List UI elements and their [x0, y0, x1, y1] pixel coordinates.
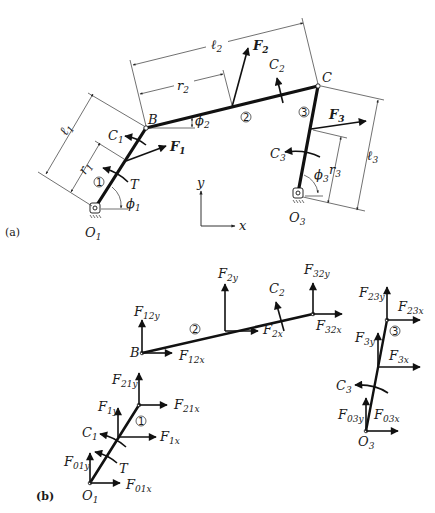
- label-r1: r1: [75, 159, 96, 178]
- label-link-1-b: 1: [138, 416, 144, 427]
- label-link-3: 3: [301, 107, 307, 118]
- moment-c2-arrow: [277, 78, 283, 103]
- label-f1y: F1y: [97, 399, 119, 416]
- label-f3: F3: [328, 107, 345, 124]
- label-phi1: ϕ1: [126, 196, 141, 213]
- label-c: C: [322, 70, 332, 85]
- label-o3: O3: [289, 210, 306, 227]
- label-f01x: F01x: [125, 477, 152, 494]
- label-c1-fbd: C1: [82, 425, 98, 442]
- part-a-tag: (a): [5, 226, 20, 239]
- joint-c-icon: [316, 84, 320, 88]
- label-l1: ℓ1: [56, 121, 76, 139]
- label-f23y: F23y: [358, 285, 385, 302]
- part-b-tag: (b): [36, 490, 54, 503]
- label-o1-fbd: O1: [82, 488, 98, 505]
- label-c2-fbd: C2: [269, 281, 285, 298]
- label-l3: ℓ3: [367, 148, 378, 165]
- label-t-fbd: T: [119, 461, 129, 476]
- label-c3: C3: [270, 146, 286, 163]
- label-f1x: F1x: [159, 429, 180, 446]
- label-phi2: ϕ2: [195, 113, 210, 130]
- moment-c3-arrow-b: [355, 385, 388, 393]
- label-t: T: [130, 177, 140, 192]
- label-r3: r3: [329, 162, 341, 179]
- label-f03x: F03x: [373, 407, 400, 424]
- label-f01y: F01y: [63, 454, 90, 471]
- moment-c3-arrow: [285, 151, 320, 157]
- label-f21y: F21y: [111, 372, 138, 389]
- label-y-axis: y: [196, 175, 205, 190]
- force-f2-arrow: [232, 48, 248, 107]
- label-f12x: F12x: [178, 348, 205, 365]
- label-link-2-b: 2: [192, 324, 198, 335]
- label-f1: F1: [169, 139, 186, 156]
- label-f2: F2: [252, 38, 269, 55]
- label-b-fbd: B: [129, 345, 140, 360]
- label-link-2: 2: [243, 112, 249, 123]
- four-bar-linkage-figure: ℓ1 r1 ℓ2 r2 ℓ3 r3 ϕ1 ϕ2: [0, 0, 435, 513]
- label-b: B: [147, 112, 158, 127]
- label-c3-fbd: C3: [336, 378, 352, 395]
- label-c2: C2: [269, 57, 285, 74]
- label-link-3-b: 3: [392, 326, 398, 337]
- xy-axes-icon: [201, 191, 235, 226]
- label-link-1: 1: [96, 177, 102, 188]
- label-f23x: F23x: [397, 299, 424, 316]
- label-c1: C1: [108, 128, 124, 145]
- label-f32y: F32y: [303, 262, 330, 279]
- label-f32x: F32x: [315, 318, 342, 335]
- label-f3x: F3x: [388, 348, 409, 365]
- label-f03y: F03y: [337, 407, 364, 424]
- label-x-axis: x: [239, 218, 247, 233]
- part-b-diagram: B F12y F12x F2y F2x C2 F32y F32x 2 F21y …: [36, 262, 424, 505]
- label-f12y: F12y: [133, 304, 160, 321]
- fbd-link-2: [140, 283, 342, 355]
- ground-support-o3-icon: [293, 188, 304, 203]
- label-f21x: F21x: [173, 397, 200, 414]
- label-o1: O1: [85, 225, 101, 242]
- label-phi3: ϕ3: [314, 167, 329, 184]
- label-f3y: F3y: [354, 330, 376, 347]
- label-f2y: F2y: [217, 266, 239, 283]
- ground-support-o1-icon: [90, 203, 101, 218]
- dimension-l1: [38, 93, 144, 206]
- part-a-diagram: ℓ1 r1 ℓ2 r2 ℓ3 r3 ϕ1 ϕ2: [5, 18, 384, 242]
- phi1-arc: [112, 187, 121, 208]
- moment-c2-arrow-b: [276, 302, 284, 331]
- label-o3-fbd: O3: [358, 434, 375, 451]
